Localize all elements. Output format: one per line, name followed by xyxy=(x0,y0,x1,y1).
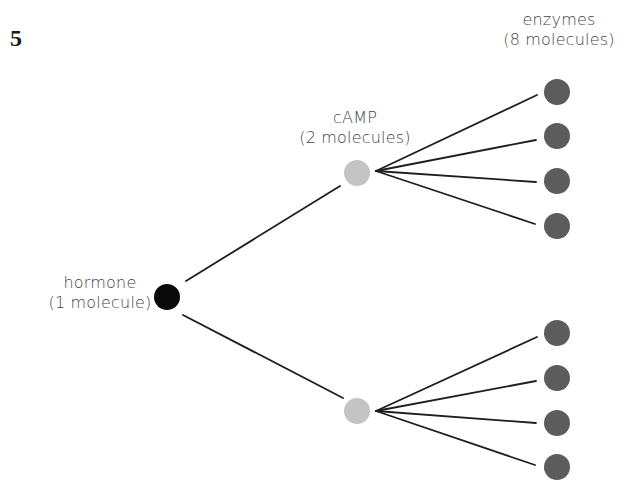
connector-line xyxy=(376,171,535,224)
enzymes-name: enzymes xyxy=(496,10,622,30)
enzyme-molecule xyxy=(544,365,570,391)
connector-line xyxy=(376,337,537,411)
camp-molecule xyxy=(344,160,370,186)
enzymes-label: enzymes (8 molecules) xyxy=(496,10,622,50)
camp-name: cAMP xyxy=(292,108,418,128)
connector-line xyxy=(183,315,343,398)
enzymes-count: (8 molecules) xyxy=(496,30,622,50)
enzyme-molecule xyxy=(544,79,570,105)
connector-line xyxy=(376,411,536,423)
enzyme-molecule xyxy=(544,213,570,239)
hormone-name: hormone xyxy=(44,273,156,293)
connector-line xyxy=(186,186,340,281)
enzyme-molecule xyxy=(544,320,570,346)
enzyme-molecule xyxy=(544,410,570,436)
camp-label: cAMP (2 molecules) xyxy=(292,108,418,148)
enzyme-molecule xyxy=(544,123,570,149)
hormone-count: (1 molecule) xyxy=(44,293,156,313)
hormone-molecule xyxy=(154,284,180,310)
amplification-cascade-diagram xyxy=(0,0,644,495)
connector-line xyxy=(376,381,536,411)
hormone-label: hormone (1 molecule) xyxy=(44,273,156,313)
connector-line xyxy=(376,411,535,465)
connector-line xyxy=(376,171,536,182)
camp-molecule xyxy=(344,398,370,424)
enzyme-molecule xyxy=(544,454,570,480)
enzyme-molecule xyxy=(544,168,570,194)
camp-count: (2 molecules) xyxy=(292,128,418,148)
